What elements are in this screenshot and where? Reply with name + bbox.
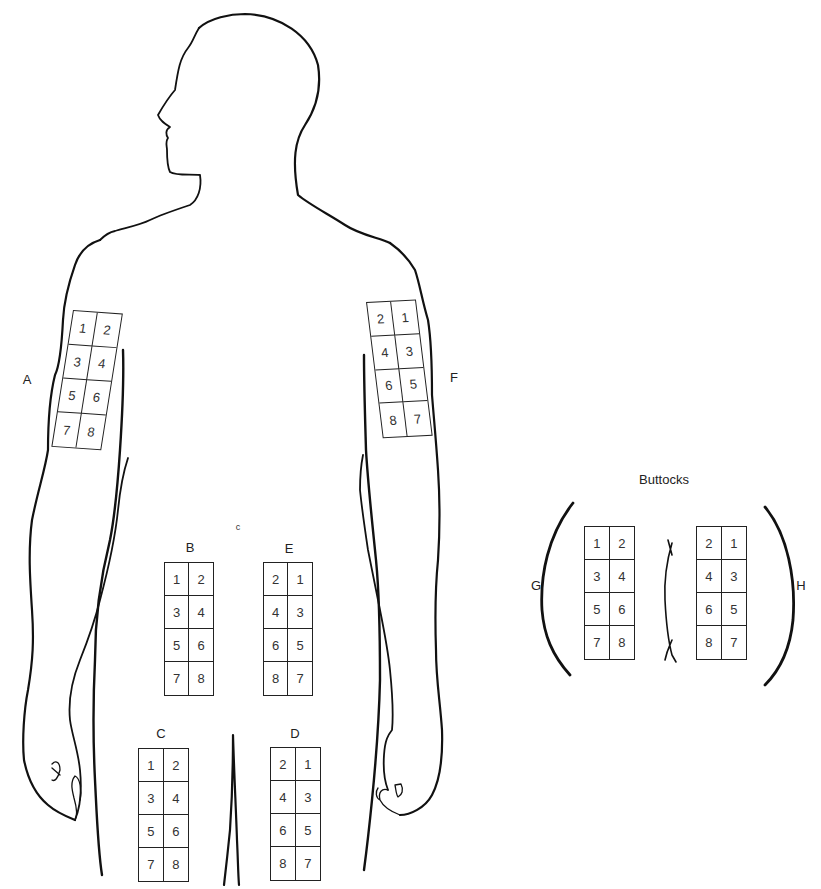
site-cell[interactable]: 6	[164, 815, 189, 848]
site-cell[interactable]: 7	[139, 848, 164, 881]
site-cell[interactable]: 6	[271, 814, 296, 847]
site-cell[interactable]: 3	[288, 596, 312, 629]
site-cell[interactable]: 4	[271, 781, 296, 814]
site-cell[interactable]: 2	[697, 527, 722, 560]
site-cell[interactable]: 3	[395, 334, 423, 369]
site-cell[interactable]: 5	[399, 368, 427, 403]
site-cell[interactable]: 6	[189, 629, 213, 662]
site-cell[interactable]: 1	[288, 563, 312, 596]
site-label-b: B	[186, 541, 195, 555]
site-cell[interactable]: 3	[296, 781, 321, 814]
site-cell[interactable]: 5	[296, 814, 321, 847]
site-cell[interactable]: 2	[264, 563, 288, 596]
site-cell[interactable]: 8	[164, 848, 189, 881]
site-grid-b: 1 2 3 4 5 6 7 8	[164, 562, 214, 696]
site-cell[interactable]: 8	[697, 626, 722, 659]
site-cell[interactable]: 5	[585, 593, 610, 626]
site-cell[interactable]: 4	[264, 596, 288, 629]
site-cell[interactable]: 6	[264, 629, 288, 662]
site-label-h: H	[796, 579, 805, 593]
site-cell[interactable]: 6	[610, 593, 635, 626]
site-label-a: A	[23, 373, 32, 387]
site-cell[interactable]: 8	[271, 847, 296, 880]
injection-site-diagram: A F 1 2 3 4 5 6 7 8 2 1 4 3 6 5 8 7 c B …	[0, 0, 821, 889]
site-cell[interactable]: 1	[391, 300, 419, 335]
body-outline	[0, 0, 821, 889]
site-cell[interactable]: 1	[585, 527, 610, 560]
site-grid-c: 1 2 3 4 5 6 7 8	[138, 748, 189, 882]
site-label-e: E	[285, 542, 294, 556]
site-cell[interactable]: 4	[87, 346, 116, 381]
site-cell[interactable]: 2	[92, 313, 121, 348]
site-label-f: F	[450, 371, 458, 385]
site-cell[interactable]: 2	[164, 749, 189, 782]
site-cell[interactable]: 7	[722, 626, 747, 659]
site-grid-h: 2 1 4 3 6 5 8 7	[696, 526, 747, 660]
site-grid-g: 1 2 3 4 5 6 7 8	[584, 526, 635, 660]
site-cell[interactable]: 6	[697, 593, 722, 626]
site-cell[interactable]: 1	[139, 749, 164, 782]
site-cell[interactable]: 2	[610, 527, 635, 560]
site-cell[interactable]: 8	[610, 626, 635, 659]
site-label-d: D	[290, 727, 299, 741]
site-cell[interactable]: 7	[403, 401, 431, 436]
buttocks-title: Buttocks	[639, 473, 689, 487]
site-cell[interactable]: 8	[76, 414, 105, 449]
site-cell[interactable]: 5	[165, 629, 189, 662]
site-cell[interactable]: 5	[722, 593, 747, 626]
site-cell[interactable]: 2	[271, 748, 296, 781]
site-cell[interactable]: 1	[296, 748, 321, 781]
site-cell[interactable]: 8	[264, 662, 288, 695]
site-cell[interactable]: 1	[165, 563, 189, 596]
site-cell[interactable]: 8	[189, 662, 213, 695]
site-grid-e: 2 1 4 3 6 5 8 7	[263, 562, 313, 696]
site-cell[interactable]: 7	[288, 662, 312, 695]
site-cell[interactable]: 4	[189, 596, 213, 629]
site-cell[interactable]: 5	[288, 629, 312, 662]
site-cell[interactable]: 6	[82, 380, 111, 415]
site-cell[interactable]: 2	[189, 563, 213, 596]
site-label-g: G	[531, 579, 541, 593]
site-cell[interactable]: 1	[722, 527, 747, 560]
site-cell[interactable]: 7	[296, 847, 321, 880]
site-cell[interactable]: 4	[697, 560, 722, 593]
site-cell[interactable]: 5	[139, 815, 164, 848]
site-cell[interactable]: 7	[165, 662, 189, 695]
site-grid-d: 2 1 4 3 6 5 8 7	[270, 747, 321, 881]
site-cell[interactable]: 3	[585, 560, 610, 593]
site-cell[interactable]: 3	[722, 560, 747, 593]
site-cell[interactable]: 4	[610, 560, 635, 593]
site-cell[interactable]: 3	[139, 782, 164, 815]
site-cell[interactable]: 7	[585, 626, 610, 659]
navel-mark: c	[236, 522, 241, 532]
site-label-c: C	[156, 727, 165, 741]
site-cell[interactable]: 3	[165, 596, 189, 629]
site-cell[interactable]: 4	[164, 782, 189, 815]
